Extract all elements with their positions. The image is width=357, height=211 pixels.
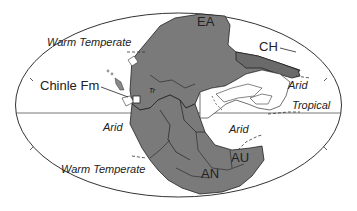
label-tropical: Tropical xyxy=(292,100,330,111)
label-chinle-fm: Chinle Fm xyxy=(40,79,99,92)
label-warm-temperate-south: Warm Temperate xyxy=(61,164,145,175)
label-arid-south: Arid xyxy=(229,124,249,135)
label-ea: EA xyxy=(197,15,214,28)
label-an: AN xyxy=(201,167,219,180)
chinle-locality-marker xyxy=(133,96,140,103)
label-arid-west: Arid xyxy=(103,122,123,133)
label-warm-temperate-north: Warm Temperate xyxy=(47,37,131,48)
label-tr: Tr xyxy=(149,87,155,94)
label-arid-northeast: Arid xyxy=(288,80,308,91)
label-ch: CH xyxy=(259,40,278,53)
label-au: AU xyxy=(231,151,249,164)
